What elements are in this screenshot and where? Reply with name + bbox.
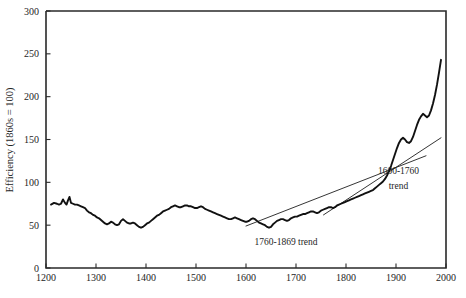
y-tick-label: 50 xyxy=(29,220,39,231)
x-tick-label: 1500 xyxy=(186,272,206,283)
x-tick-label: 1200 xyxy=(36,272,56,283)
y-tick-label: 150 xyxy=(24,134,39,145)
x-tick-label: 2000 xyxy=(436,272,456,283)
annotation-trend-1600-1760: 1600-1760 xyxy=(378,166,419,176)
y-tick-label: 200 xyxy=(24,91,39,102)
efficiency-chart-figure: 120013001400150016001700180019002000 050… xyxy=(0,0,466,298)
x-tick-label: 1700 xyxy=(286,272,306,283)
x-tick-label: 1900 xyxy=(386,272,406,283)
plot-background xyxy=(46,11,446,268)
chart-canvas: 120013001400150016001700180019002000 050… xyxy=(0,0,466,298)
annotation-trend-1760-1869: 1760-1869 trend xyxy=(254,237,317,247)
y-tick-label: 300 xyxy=(24,6,39,17)
y-tick-label: 0 xyxy=(34,263,39,274)
x-axis-tick-labels: 120013001400150016001700180019002000 xyxy=(36,272,456,283)
y-axis-title: Efficiency (1860s = 100) xyxy=(4,87,16,193)
y-axis-tick-labels: 050100150200250300 xyxy=(24,6,39,274)
annotation-trend-1600-1760-second-line: trend xyxy=(389,181,409,191)
x-tick-label: 1300 xyxy=(86,272,106,283)
x-tick-label: 1400 xyxy=(136,272,156,283)
y-tick-label: 250 xyxy=(24,48,39,59)
y-tick-label: 100 xyxy=(24,177,39,188)
x-tick-label: 1800 xyxy=(336,272,356,283)
plot-frame xyxy=(46,11,446,268)
x-tick-label: 1600 xyxy=(236,272,256,283)
